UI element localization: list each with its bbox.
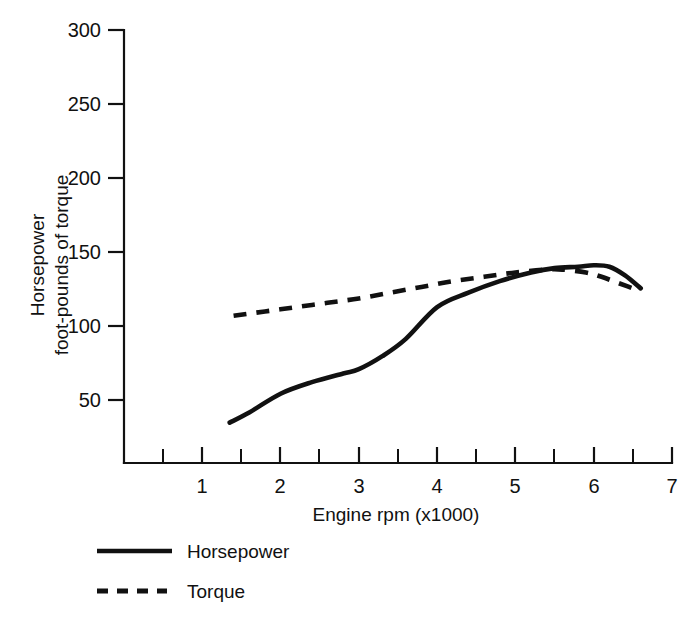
engine-performance-chart: 300 250 200 150 100 50 Horsepower foot-p… — [0, 0, 695, 619]
y-tick-label-50: 50 — [79, 389, 101, 411]
x-tick-label-3: 3 — [353, 475, 364, 497]
y-axis-tick-labels: 300 250 200 150 100 50 — [68, 19, 101, 411]
y-axis-ticks — [108, 30, 124, 400]
y-tick-label-100: 100 — [68, 315, 101, 337]
x-tick-label-4: 4 — [431, 475, 442, 497]
x-axis-minor-ticks — [163, 449, 633, 463]
x-axis-ticks — [202, 447, 672, 463]
x-tick-label-5: 5 — [509, 475, 520, 497]
y-tick-label-200: 200 — [68, 167, 101, 189]
legend-label-torque: Torque — [187, 581, 245, 602]
chart-legend: Horsepower Torque — [97, 541, 290, 602]
y-tick-label-300: 300 — [68, 19, 101, 41]
x-axis-title: Engine rpm (x1000) — [313, 504, 480, 525]
x-tick-label-2: 2 — [274, 475, 285, 497]
y-axis-title: Horsepower foot-pounds of torque — [27, 175, 72, 356]
y-axis-title-line2: foot-pounds of torque — [51, 175, 72, 356]
series-line-horsepower — [230, 265, 641, 422]
chart-canvas: 300 250 200 150 100 50 Horsepower foot-p… — [0, 0, 695, 619]
legend-label-horsepower: Horsepower — [187, 541, 290, 562]
x-tick-label-6: 6 — [588, 475, 599, 497]
x-tick-label-7: 7 — [666, 475, 677, 497]
y-tick-label-250: 250 — [68, 93, 101, 115]
y-tick-label-150: 150 — [68, 241, 101, 263]
x-axis-tick-labels: 1 2 3 4 5 6 7 — [196, 475, 677, 497]
x-tick-label-1: 1 — [196, 475, 207, 497]
y-axis-title-line1: Horsepower — [27, 213, 48, 316]
